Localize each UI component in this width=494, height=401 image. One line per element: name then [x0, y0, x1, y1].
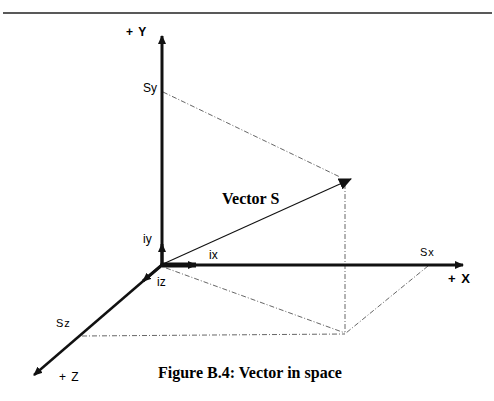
vector-s-label: Vector S: [222, 190, 279, 208]
sy-projection: [163, 92, 340, 177]
sx-label: Sx: [420, 246, 435, 258]
iz-label: iz: [157, 275, 166, 289]
sy-label: Sy: [143, 81, 157, 95]
z-axis-label: + Z: [59, 370, 80, 384]
iy-label: iy: [143, 232, 152, 246]
origin-to-base: [166, 268, 345, 333]
y-axis-label: + Y: [126, 25, 147, 39]
sz-label: Sz: [56, 317, 71, 329]
sz-projection: [82, 334, 345, 336]
projection-lines: [82, 92, 428, 336]
sx-projection: [346, 266, 428, 333]
figure-caption: Figure B.4: Vector in space: [158, 364, 342, 382]
ix-label: ix: [209, 248, 218, 262]
x-axis-label: + X: [448, 271, 471, 286]
